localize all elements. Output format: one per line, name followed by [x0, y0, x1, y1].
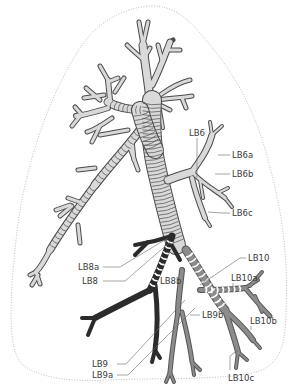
label-LB8: LB8: [82, 276, 98, 286]
bronchial-tree-diagram: LB6 LB6a LB6b LB6c LB8a LB8 LB8b LB9 LB9…: [0, 0, 294, 389]
label-LB10: LB10: [248, 253, 269, 263]
label-LB6: LB6: [189, 128, 205, 138]
label-LB10c: LB10c: [228, 373, 254, 383]
label-LB8a: LB8a: [78, 262, 99, 272]
label-LB6c: LB6c: [232, 208, 253, 218]
label-LB10a: LB10a: [231, 273, 258, 283]
label-LB9a: LB9a: [92, 370, 113, 380]
label-LB10b: LB10b: [250, 316, 277, 326]
label-LB9: LB9: [92, 359, 108, 369]
label-LB9b: LB9b: [202, 310, 223, 320]
label-LB8b: LB8b: [160, 276, 181, 286]
label-LB6a: LB6a: [232, 150, 253, 160]
label-LB6b: LB6b: [232, 169, 253, 179]
LB8-branches: [82, 236, 180, 362]
